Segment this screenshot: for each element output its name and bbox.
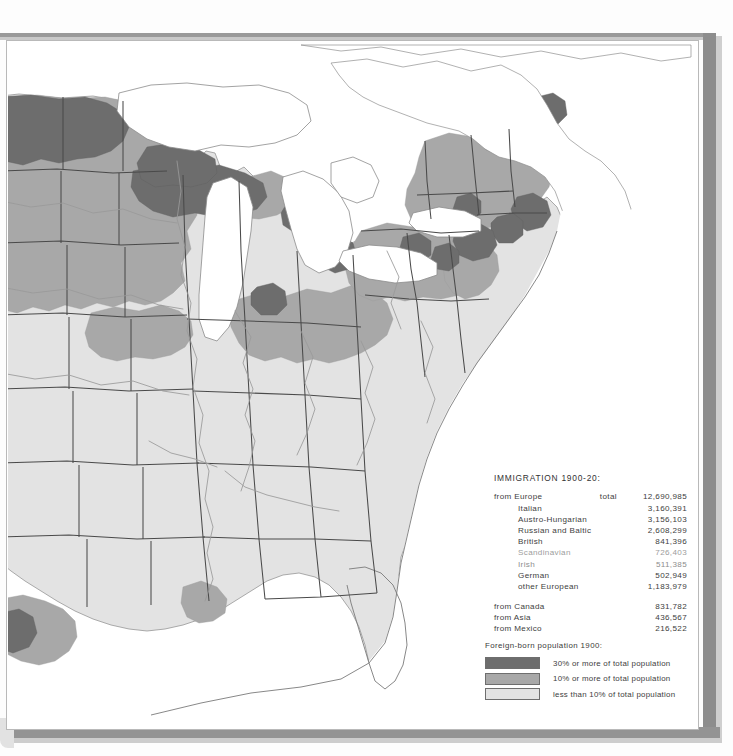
stat-label: Russian and Baltic [494, 527, 627, 538]
legend-swatch-high-icon [485, 657, 540, 669]
page-edge-bottom-highlight [8, 738, 722, 743]
immigration-statistics: IMMIGRATION 1900-20: from Europe total 1… [494, 474, 689, 637]
table-row: from Mexico 216,522 [494, 625, 687, 636]
page: IMMIGRATION 1900-20: from Europe total 1… [0, 0, 733, 756]
table-row: other European 1,183,979 [494, 583, 687, 594]
statistics-table: from Europe total 12,690,985 Italian 3,1… [494, 493, 687, 636]
stat-value: 12,690,985 [627, 493, 687, 504]
stat-total-label: total [579, 493, 627, 504]
stat-value: 216,522 [627, 625, 687, 636]
table-row: from Europe total 12,690,985 [494, 493, 687, 504]
statistics-rows: from Europe total 12,690,985 Italian 3,1… [494, 493, 687, 636]
statistics-title: IMMIGRATION 1900-20: [494, 474, 689, 482]
table-row: from Canada 831,782 [494, 594, 687, 614]
legend-item-high: 30% or more of total population [485, 657, 685, 669]
legend-label: 30% or more of total population [553, 659, 670, 668]
page-edge-right-highlight [716, 36, 722, 743]
legend-swatch-medium-icon [485, 673, 540, 685]
stat-value: 726,403 [627, 549, 687, 560]
table-row: Scandinavian 726,403 [494, 549, 687, 560]
legend-label: less than 10% of total population [553, 690, 675, 699]
page-edge-right [703, 33, 716, 740]
legend-item-low: less than 10% of total population [485, 688, 685, 700]
stat-label: from Europe [494, 493, 579, 504]
stat-label: Scandinavian [494, 549, 627, 560]
legend-swatch-low-icon [485, 688, 540, 700]
stat-label: Irish [494, 561, 627, 572]
stat-value: 831,782 [627, 594, 687, 614]
stat-label: other European [494, 583, 627, 594]
stat-label: from Mexico [494, 625, 627, 636]
stat-value: 1,183,979 [627, 583, 687, 594]
map-legend: Foreign-born population 1900: 30% or mor… [485, 641, 685, 704]
legend-item-medium: 10% or more of total population [485, 673, 685, 685]
stat-label: from Canada [494, 594, 627, 614]
legend-label: 10% or more of total population [553, 674, 670, 683]
legend-title: Foreign-born population 1900: [485, 641, 685, 650]
map-sheet: IMMIGRATION 1900-20: from Europe total 1… [6, 40, 699, 730]
